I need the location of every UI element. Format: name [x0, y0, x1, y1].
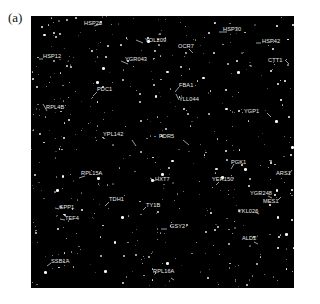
array-spot: [97, 125, 98, 126]
array-spot: [125, 126, 126, 127]
array-spot: [293, 247, 294, 249]
array-spot: [249, 62, 250, 63]
array-spot: [135, 254, 137, 256]
array-spot: [169, 280, 170, 281]
array-spot: [277, 247, 279, 249]
array-spot: [96, 81, 99, 84]
array-spot: [108, 208, 109, 209]
array-spot: [55, 36, 57, 38]
leader-line: [105, 202, 109, 206]
array-spot: [112, 110, 113, 111]
array-spot: [54, 191, 55, 192]
array-spot: [56, 176, 57, 177]
array-spot: [160, 232, 161, 233]
gene-label: GPP1: [59, 205, 74, 211]
array-spot: [160, 169, 161, 170]
array-spot: [70, 66, 72, 68]
array-spot: [68, 119, 70, 121]
array-spot: [139, 93, 141, 95]
array-spot: [68, 97, 69, 98]
array-spot: [274, 194, 276, 196]
gene-label: YGR248: [250, 191, 272, 197]
array-spot: [254, 24, 255, 25]
array-spot: [212, 187, 213, 188]
array-spot: [272, 69, 273, 70]
array-spot: [230, 110, 231, 111]
array-spot: [151, 179, 154, 182]
array-spot: [243, 52, 244, 53]
array-spot: [284, 80, 286, 82]
array-spot: [213, 52, 215, 54]
array-spot: [205, 150, 206, 151]
leader-line: [254, 242, 258, 244]
array-spot: [127, 242, 128, 243]
array-spot: [143, 256, 144, 257]
array-spot: [38, 182, 39, 183]
array-spot: [208, 92, 209, 93]
array-spot: [186, 35, 187, 36]
array-spot: [202, 77, 205, 80]
array-spot: [154, 136, 155, 137]
array-spot: [160, 79, 161, 80]
array-spot: [214, 229, 216, 231]
array-spot: [286, 248, 287, 249]
array-spot: [53, 32, 55, 34]
gene-label: FBA1: [179, 83, 193, 89]
array-spot: [280, 99, 282, 101]
array-spot: [99, 185, 100, 186]
array-spot: [150, 135, 151, 136]
array-spot: [267, 88, 268, 89]
array-spot: [232, 233, 233, 234]
array-spot: [130, 86, 131, 87]
array-spot: [286, 59, 287, 60]
gene-label: RPL15A: [81, 171, 102, 177]
array-spot: [252, 275, 253, 276]
array-spot: [260, 254, 261, 255]
array-spot: [91, 50, 93, 52]
array-spot: [81, 192, 82, 193]
gene-label: RPL4B: [46, 105, 64, 111]
array-spot: [204, 157, 205, 158]
array-spot: [274, 164, 275, 165]
array-spot: [143, 275, 144, 276]
array-spot: [228, 229, 229, 230]
array-spot: [189, 68, 190, 69]
leader-lines: [31, 16, 294, 288]
array-spot: [244, 168, 247, 171]
array-spot: [102, 16, 103, 17]
array-spot: [208, 113, 210, 115]
array-spot: [112, 144, 113, 145]
gene-label: MES1: [263, 199, 279, 205]
array-spot: [272, 48, 274, 50]
gene-label: YPL142: [103, 132, 124, 138]
array-spot: [197, 117, 198, 118]
array-spot: [50, 76, 51, 77]
array-spot: [78, 246, 79, 247]
gene-label: HSP42: [262, 39, 280, 45]
leader-line: [189, 49, 193, 53]
array-spot: [134, 171, 135, 172]
array-spot: [122, 79, 124, 81]
gene-label: PGK1: [231, 160, 246, 166]
array-spot: [283, 156, 284, 157]
array-spot: [120, 44, 121, 45]
array-spot: [109, 72, 110, 73]
array-spot: [45, 116, 46, 117]
array-spot: [241, 109, 242, 110]
array-spot: [102, 67, 105, 70]
gene-label: RPL16A: [153, 269, 174, 275]
array-spot: [188, 151, 189, 152]
array-spot: [55, 151, 56, 152]
array-spot: [90, 264, 91, 265]
array-spot: [178, 149, 179, 150]
array-spot: [180, 66, 182, 68]
array-spot: [205, 253, 206, 254]
array-spot: [291, 189, 293, 191]
array-spot: [185, 52, 187, 54]
array-spot: [270, 162, 272, 164]
microarray-image: HSP26YOL209HSP30HSP12YGR043OCR7HSP42CTT1…: [31, 16, 294, 288]
array-spot: [237, 71, 240, 74]
array-spot: [136, 90, 137, 91]
array-spot: [232, 111, 233, 112]
array-spot: [291, 219, 293, 221]
